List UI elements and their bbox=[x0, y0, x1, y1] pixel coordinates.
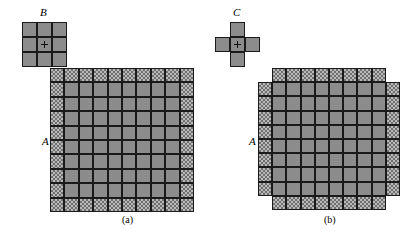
boundary-cell bbox=[386, 139, 400, 153]
interior-cell bbox=[165, 154, 179, 168]
interior-cell bbox=[329, 125, 343, 139]
boundary-cell bbox=[301, 196, 315, 210]
interior-cell bbox=[372, 111, 386, 125]
interior-cell bbox=[79, 154, 93, 168]
interior-cell bbox=[315, 153, 329, 167]
interior-cell bbox=[93, 111, 107, 125]
interior-cell bbox=[151, 97, 165, 111]
interior-cell bbox=[79, 169, 93, 183]
boundary-cell bbox=[122, 198, 136, 212]
interior-cell bbox=[343, 125, 357, 139]
interior-cell bbox=[315, 167, 329, 181]
interior-cell bbox=[372, 139, 386, 153]
interior-cell bbox=[372, 96, 386, 110]
interior-cell bbox=[301, 82, 315, 96]
boundary-cell bbox=[343, 196, 357, 210]
panel-a-object-label: A bbox=[42, 136, 49, 147]
interior-cell bbox=[372, 182, 386, 196]
panel-a-caption: (a) bbox=[122, 215, 133, 225]
boundary-cell bbox=[151, 68, 165, 82]
boundary-cell bbox=[136, 198, 150, 212]
interior-cell bbox=[343, 167, 357, 181]
boundary-cell bbox=[50, 111, 64, 125]
interior-cell bbox=[286, 153, 300, 167]
interior-cell bbox=[329, 182, 343, 196]
interior-cell bbox=[272, 139, 286, 153]
interior-cell bbox=[343, 182, 357, 196]
boundary-cell bbox=[357, 68, 371, 82]
boundary-cell bbox=[93, 68, 107, 82]
boundary-cell bbox=[386, 111, 400, 125]
interior-cell bbox=[151, 140, 165, 154]
se-cell bbox=[37, 52, 52, 67]
boundary-cell bbox=[258, 125, 272, 139]
interior-cell bbox=[343, 82, 357, 96]
structuring-element-b-label: B bbox=[40, 7, 47, 18]
se-cell bbox=[230, 22, 245, 37]
interior-cell bbox=[122, 97, 136, 111]
boundary-cell bbox=[180, 198, 194, 212]
interior-cell bbox=[64, 154, 78, 168]
structuring-element-c-grid bbox=[215, 22, 260, 67]
boundary-cell bbox=[329, 196, 343, 210]
boundary-cell bbox=[50, 154, 64, 168]
boundary-cell bbox=[286, 68, 300, 82]
interior-cell bbox=[329, 139, 343, 153]
interior-cell bbox=[136, 154, 150, 168]
panel-b-caption: (b) bbox=[324, 215, 336, 225]
interior-cell bbox=[108, 169, 122, 183]
interior-cell bbox=[136, 82, 150, 96]
boundary-cell bbox=[50, 140, 64, 154]
interior-cell bbox=[93, 154, 107, 168]
boundary-cell bbox=[258, 182, 272, 196]
interior-cell bbox=[165, 82, 179, 96]
interior-cell bbox=[329, 153, 343, 167]
interior-cell bbox=[122, 111, 136, 125]
structuring-element-b-grid bbox=[22, 22, 67, 67]
interior-cell bbox=[301, 153, 315, 167]
boundary-cell bbox=[180, 183, 194, 197]
se-cell bbox=[52, 22, 67, 37]
interior-cell bbox=[79, 97, 93, 111]
structuring-element-c-label: C bbox=[233, 7, 240, 18]
boundary-cell bbox=[79, 68, 93, 82]
interior-cell bbox=[108, 97, 122, 111]
boundary-cell bbox=[93, 198, 107, 212]
interior-cell bbox=[64, 111, 78, 125]
boundary-cell bbox=[50, 169, 64, 183]
interior-cell bbox=[151, 126, 165, 140]
interior-cell bbox=[315, 96, 329, 110]
boundary-cell bbox=[136, 68, 150, 82]
boundary-cell bbox=[50, 97, 64, 111]
interior-cell bbox=[151, 169, 165, 183]
interior-cell bbox=[79, 82, 93, 96]
panel-b-object-label: A bbox=[249, 136, 256, 147]
interior-cell bbox=[122, 140, 136, 154]
interior-cell bbox=[357, 111, 371, 125]
se-cell bbox=[37, 37, 52, 52]
interior-cell bbox=[79, 183, 93, 197]
se-cell bbox=[52, 52, 67, 67]
interior-cell bbox=[286, 125, 300, 139]
interior-cell bbox=[136, 183, 150, 197]
interior-cell bbox=[372, 125, 386, 139]
interior-cell bbox=[122, 126, 136, 140]
interior-cell bbox=[151, 183, 165, 197]
interior-cell bbox=[108, 154, 122, 168]
interior-cell bbox=[136, 111, 150, 125]
boundary-cell bbox=[386, 182, 400, 196]
interior-cell bbox=[122, 154, 136, 168]
interior-cell bbox=[93, 140, 107, 154]
boundary-cell bbox=[122, 68, 136, 82]
interior-cell bbox=[93, 82, 107, 96]
interior-cell bbox=[286, 111, 300, 125]
boundary-cell bbox=[108, 198, 122, 212]
boundary-cell bbox=[258, 167, 272, 181]
panel-a-grid bbox=[50, 68, 194, 212]
boundary-cell bbox=[151, 198, 165, 212]
interior-cell bbox=[165, 126, 179, 140]
interior-cell bbox=[315, 139, 329, 153]
boundary-cell bbox=[357, 196, 371, 210]
interior-cell bbox=[165, 169, 179, 183]
boundary-cell bbox=[180, 97, 194, 111]
